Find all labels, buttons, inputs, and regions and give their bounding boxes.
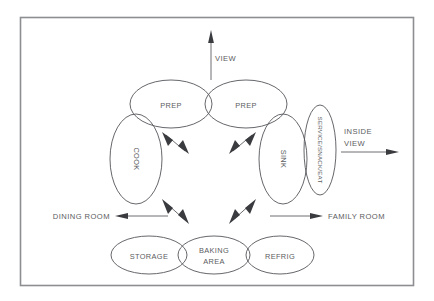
- bubble-cook-label: COOK: [132, 147, 141, 170]
- kitchen-bubble-diagram: VIEW INSIDE VIEW DINING ROOM FAMILY ROOM…: [0, 0, 434, 301]
- dining-room-label: DINING ROOM: [53, 212, 110, 221]
- bubble-baking-area-label-line1: BAKING: [199, 246, 229, 255]
- bubble-storage[interactable]: STORAGE: [111, 236, 187, 274]
- bubble-service-snack-eat[interactable]: SERVICE/SNACK/EAT: [304, 105, 336, 195]
- bubble-prep-right-label: PREP: [235, 101, 257, 110]
- view-label: VIEW: [215, 54, 237, 63]
- bubble-baking-area-label-line2: AREA: [203, 257, 225, 266]
- connector-arrow-refrig: [229, 199, 256, 224]
- bubble-sink-label: SINK: [279, 150, 288, 169]
- bubble-refrig[interactable]: REFRIG: [246, 236, 314, 274]
- bubble-storage-label: STORAGE: [130, 252, 168, 261]
- bubble-prep-left[interactable]: PREP: [130, 80, 212, 128]
- bubble-cook[interactable]: COOK: [110, 114, 162, 204]
- view-arrow: [208, 30, 214, 80]
- connector-arrow-prep-right: [229, 132, 256, 154]
- inside-view-label-line1: INSIDE: [344, 127, 372, 136]
- bubble-refrig-label: REFRIG: [265, 252, 295, 261]
- bubble-baking-area[interactable]: BAKING AREA: [178, 236, 250, 274]
- connector-arrow-prep-left: [162, 132, 189, 154]
- bubble-prep-right[interactable]: PREP: [205, 80, 287, 128]
- bubble-sink[interactable]: SINK: [259, 114, 307, 204]
- inside-view-arrow: [341, 149, 399, 155]
- dining-room-arrow: [115, 213, 168, 219]
- bubble-prep-left-label: PREP: [160, 101, 182, 110]
- family-room-arrow: [270, 213, 323, 219]
- connector-arrow-storage: [162, 199, 189, 224]
- family-room-label: FAMILY ROOM: [328, 212, 385, 221]
- diagram-canvas: VIEW INSIDE VIEW DINING ROOM FAMILY ROOM…: [0, 0, 434, 301]
- bubble-service-snack-eat-label: SERVICE/SNACK/EAT: [317, 117, 324, 184]
- inside-view-label-line2: VIEW: [344, 139, 366, 148]
